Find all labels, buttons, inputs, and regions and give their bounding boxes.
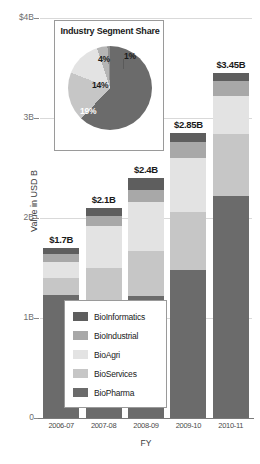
legend-label: BioIndustrial xyxy=(94,331,138,341)
legend-label: BioInformatics xyxy=(94,312,145,322)
legend-item-biopharma[interactable]: BioPharma xyxy=(73,383,166,402)
pie-slice-label: 62% xyxy=(120,130,136,140)
pie-slice-label: 4% xyxy=(98,54,110,64)
x-axis-title: FY xyxy=(40,438,252,448)
bar-segment-bioagri xyxy=(213,96,249,134)
pie-leader-line xyxy=(123,59,124,69)
legend-item-bioagri[interactable]: BioAgri xyxy=(73,345,166,364)
x-tick-label: 2010-11 xyxy=(206,421,256,430)
legend-item-bioservices[interactable]: BioServices xyxy=(73,364,166,383)
bar-segment-bioinformatics xyxy=(128,178,164,190)
bar-segment-bioagri xyxy=(170,158,206,212)
legend-label: BioAgri xyxy=(94,350,120,360)
legend-label: BioPharma xyxy=(94,388,134,398)
bar-segment-bioindustrial xyxy=(170,142,206,158)
legend-label: BioServices xyxy=(94,369,137,379)
bar-segment-bioinformatics xyxy=(86,208,122,216)
bar-segment-bioinformatics xyxy=(170,133,206,142)
bar-segment-bioinformatics xyxy=(213,73,249,81)
stacked-bar-chart: Value in USD B $4B3B2B1B0 $1.7B$2.1B$2.4… xyxy=(0,0,260,464)
bar-segment-biopharma xyxy=(213,196,249,418)
pie-slice-label: 14% xyxy=(92,80,108,90)
bar-segment-bioservices xyxy=(43,278,79,295)
legend-item-bioindustrial[interactable]: BioIndustrial xyxy=(73,326,166,345)
inset-pie-title: Industry Segment Share xyxy=(55,26,165,36)
legend-swatch xyxy=(73,312,88,321)
pie-slice-label: 1% xyxy=(124,51,136,61)
bar-total-label: $2.85B xyxy=(156,119,220,130)
chart-legend: BioInformaticsBioIndustrialBioAgriBioSer… xyxy=(64,300,167,408)
bar-segment-bioindustrial xyxy=(128,190,164,202)
inset-pie-panel: Industry Segment Share 62%19%14%4%1% xyxy=(54,20,164,151)
bar-total-label: $2.4B xyxy=(114,164,178,175)
legend-swatch xyxy=(73,369,88,378)
bar-2010-11 xyxy=(213,73,249,418)
pie-slice-label: 19% xyxy=(80,106,96,116)
pie-chart xyxy=(68,46,152,130)
bar-segment-bioindustrial xyxy=(86,216,122,226)
bar-segment-biopharma xyxy=(170,270,206,418)
bar-total-label: $3.45B xyxy=(199,59,260,70)
bar-segment-bioagri xyxy=(128,202,164,251)
bar-segment-bioservices xyxy=(213,134,249,196)
bar-segment-bioindustrial xyxy=(213,81,249,96)
bar-total-label: $1.7B xyxy=(29,234,93,245)
bar-segment-bioagri xyxy=(43,262,79,278)
legend-swatch xyxy=(73,350,88,359)
bar-segment-bioindustrial xyxy=(43,254,79,262)
bar-2009-10 xyxy=(170,133,206,418)
x-axis-line xyxy=(38,418,254,419)
bar-segment-bioagri xyxy=(86,226,122,268)
legend-item-bioinformatics[interactable]: BioInformatics xyxy=(73,307,166,326)
bar-segment-bioservices xyxy=(128,251,164,296)
legend-swatch xyxy=(73,331,88,340)
legend-swatch xyxy=(73,388,88,397)
bar-segment-bioservices xyxy=(170,212,206,270)
bar-total-label: $2.1B xyxy=(72,194,136,205)
